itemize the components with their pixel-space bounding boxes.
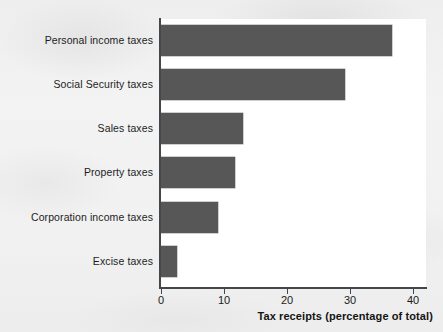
plot-area xyxy=(161,19,426,287)
bar-chart-figure: Personal income taxes Social Security ta… xyxy=(0,0,443,332)
bar-row xyxy=(161,25,392,56)
category-label-social-security-taxes: Social Security taxes xyxy=(5,78,153,90)
bar-row xyxy=(161,202,218,233)
category-label-property-taxes: Property taxes xyxy=(5,166,153,178)
x-tick-label-40: 40 xyxy=(407,294,419,306)
x-tick-label-10: 10 xyxy=(218,294,230,306)
bar-row xyxy=(161,69,345,100)
category-label-sales-taxes: Sales taxes xyxy=(5,122,153,134)
x-axis-line xyxy=(159,287,427,289)
x-tick-label-0: 0 xyxy=(158,294,164,306)
bar-row xyxy=(161,246,177,277)
bar-row xyxy=(161,113,243,144)
bar-social-security-taxes xyxy=(161,69,345,100)
category-label-excise-taxes: Excise taxes xyxy=(5,255,153,267)
bar-personal-income-taxes xyxy=(161,25,392,56)
category-label-personal-income-taxes: Personal income taxes xyxy=(5,34,153,46)
x-axis-title: Tax receipts (percentage of total) xyxy=(257,310,433,322)
bar-row xyxy=(161,157,235,188)
bar-corporation-income-taxes xyxy=(161,202,218,233)
bar-excise-taxes xyxy=(161,246,177,277)
bar-sales-taxes xyxy=(161,113,243,144)
category-label-corporation-income-taxes: Corporation income taxes xyxy=(5,211,153,223)
x-tick-label-30: 30 xyxy=(344,294,356,306)
x-tick-label-20: 20 xyxy=(281,294,293,306)
bar-property-taxes xyxy=(161,157,235,188)
